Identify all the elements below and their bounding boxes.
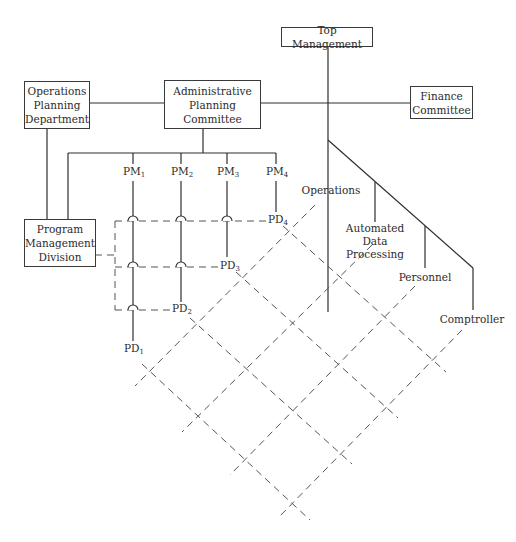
program-management-box: Program Management Division	[24, 219, 96, 267]
finance-committee-label: Finance Committee	[412, 89, 471, 117]
operations-label: Operations	[296, 184, 366, 197]
pd2-label: PD2	[172, 302, 192, 316]
operations-planning-box: Operations Planning Department	[24, 81, 90, 129]
pm4-label: PM4	[266, 165, 288, 179]
finance-committee-box: Finance Committee	[410, 86, 473, 119]
top-management-label: Top Management	[282, 23, 372, 51]
pd3-label: PD3	[220, 259, 240, 273]
comptroller-label: Comptroller	[436, 313, 508, 326]
pd1-label: PD1	[124, 342, 144, 356]
top-management-box: Top Management	[281, 27, 373, 47]
administrative-planning-label: Administrative Planning Committee	[173, 84, 251, 126]
operations-planning-label: Operations Planning Department	[25, 84, 89, 126]
pm3-label: PM3	[217, 165, 239, 179]
adp-label: Automated Data Processing	[345, 222, 405, 261]
personnel-label: Personnel	[395, 271, 455, 284]
program-management-label: Program Management Division	[25, 222, 95, 264]
pm2-label: PM2	[171, 165, 193, 179]
pd4-label: PD4	[268, 213, 288, 227]
pm1-label: PM1	[123, 165, 145, 179]
administrative-planning-box: Administrative Planning Committee	[164, 80, 261, 129]
